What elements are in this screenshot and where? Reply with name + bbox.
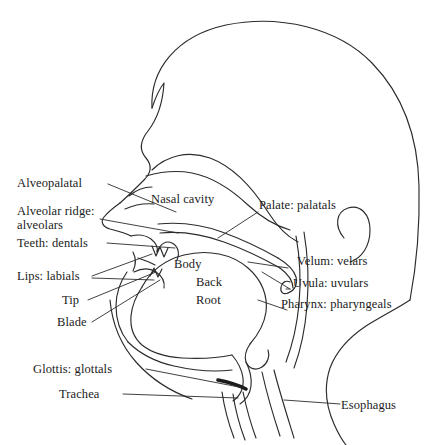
- label-tongue-back: Back: [196, 275, 222, 289]
- leader-line-teeth: [107, 243, 175, 248]
- oral-aperture: [133, 252, 135, 271]
- nasal-floor-front: [125, 204, 154, 209]
- lip-corner-detail: [138, 258, 155, 265]
- lower-lip: [134, 269, 164, 288]
- leader-line-blade: [92, 280, 160, 322]
- trachea-anterior-wall: [222, 392, 234, 438]
- leader-line-velum: [248, 262, 288, 268]
- label-alveolar-ridge: Alveolar ridge:: [17, 204, 95, 218]
- label-lips-labials: Lips: labials: [17, 269, 80, 283]
- neck-posterior-outline: [327, 300, 410, 445]
- leader-line-alveolars: [100, 219, 178, 233]
- label-tongue-body: Body: [174, 257, 202, 271]
- leader-line-glottis: [146, 369, 244, 388]
- leader-line-palate: [218, 212, 258, 238]
- label-nasal-cavity: Nasal cavity: [151, 192, 214, 206]
- tongue-root-epiglottis: [245, 344, 269, 369]
- label-alveopalatal: Alveopalatal: [17, 176, 82, 190]
- label-pharynx-pharyngeals: Pharynx: pharyngeals: [281, 297, 392, 311]
- label-glottis-glottals: Glottis: glottals: [33, 362, 112, 376]
- leader-line-lips-upper: [92, 254, 152, 276]
- neck-anterior-outline: [110, 300, 192, 399]
- uvula-hook: [281, 281, 290, 293]
- trachea-posterior-wall: [243, 392, 256, 438]
- leader-line-uvula-long: [262, 272, 290, 289]
- label-esophagus: Esophagus: [341, 398, 396, 412]
- laryngeal-vestibule: [240, 362, 251, 404]
- label-tip: Tip: [62, 293, 79, 307]
- label-blade: Blade: [57, 315, 87, 329]
- hard-palate-line: [158, 223, 278, 258]
- label-trachea: Trachea: [59, 387, 100, 401]
- label-alveolars: alveolars: [17, 218, 63, 232]
- vocal-tract-diagram-page: Alveopalatal Alveolar ridge: alveolars T…: [0, 0, 442, 445]
- forehead-nose-brow-outline: [120, 83, 164, 203]
- label-velum-velars: Velum: velars: [297, 254, 367, 268]
- label-tongue-root: Root: [196, 293, 221, 307]
- leader-line-esophagus: [284, 400, 340, 404]
- label-uvula-uvulars: Uvula: uvulars: [293, 276, 368, 290]
- vocal-tract-illustration: [0, 0, 442, 445]
- label-teeth-dentals: Teeth: dentals: [17, 236, 88, 250]
- label-palate-palatals: Palate: palatals: [259, 198, 336, 212]
- larynx-outline: [232, 355, 243, 401]
- leader-line-tip: [88, 272, 156, 300]
